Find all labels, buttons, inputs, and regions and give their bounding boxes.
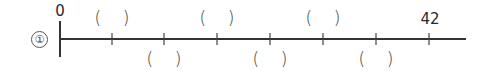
upper-blank-2[interactable]: ( ) [200,10,235,27]
upper-blank-3[interactable]: ( ) [306,10,341,27]
lower-blank-1[interactable]: ( ) [147,51,182,68]
lower-blank-3[interactable]: ( ) [359,51,394,68]
blank-text: ( ) [359,49,394,69]
blank-text: ( ) [147,49,182,69]
start-label: 0 [55,4,65,19]
lower-blank-2[interactable]: ( ) [253,51,288,68]
number-line [0,0,491,77]
blank-text: ( ) [306,8,341,28]
blank-text: ( ) [200,8,235,28]
blank-text: ( ) [95,8,130,28]
blank-text: ( ) [253,49,288,69]
upper-blank-1[interactable]: ( ) [95,10,130,27]
end-label: 42 [420,12,439,27]
